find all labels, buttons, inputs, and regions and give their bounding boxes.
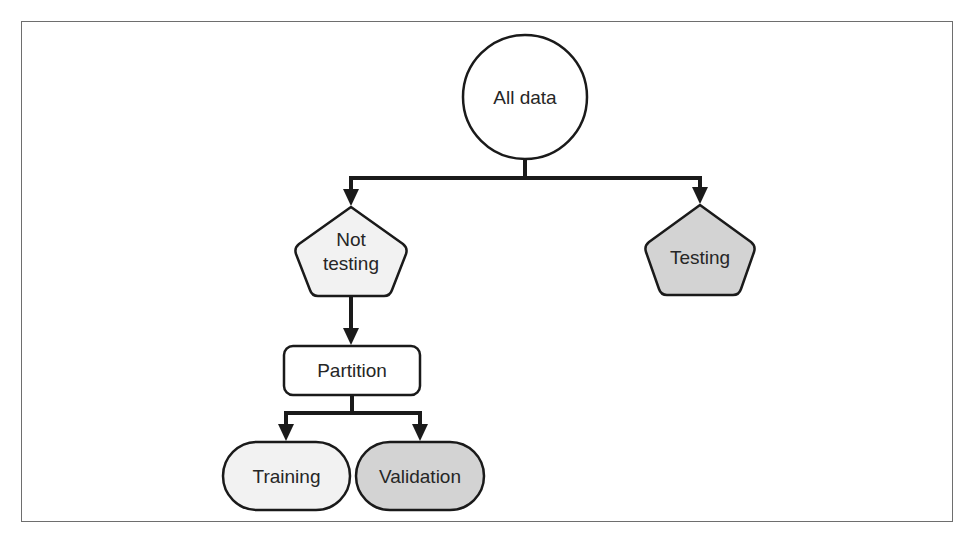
node-validation-label: Validation: [379, 466, 461, 487]
edges-root: [349, 159, 702, 192]
arrowhead-not-testing-icon: [343, 189, 359, 206]
node-partition-label: Partition: [317, 360, 387, 381]
node-training: Training: [223, 442, 350, 510]
node-all-data: All data: [463, 35, 587, 159]
node-testing: Testing: [645, 205, 754, 295]
data-split-diagram: All data Not testing Testing Partition T…: [0, 0, 970, 537]
node-partition: Partition: [284, 346, 420, 395]
node-all-data-label: All data: [493, 87, 557, 108]
node-not-testing-label-line1: Not: [336, 229, 366, 250]
arrowhead-validation-icon: [412, 424, 428, 441]
arrowhead-training-icon: [278, 424, 294, 441]
node-training-label: Training: [253, 466, 321, 487]
edges-partition: [284, 395, 422, 426]
arrowhead-partition-icon: [343, 328, 359, 345]
node-testing-label: Testing: [670, 247, 730, 268]
node-validation: Validation: [356, 442, 484, 510]
node-not-testing: Not testing: [295, 207, 406, 296]
node-not-testing-label-line2: testing: [323, 253, 379, 274]
arrowhead-testing-icon: [692, 187, 708, 204]
